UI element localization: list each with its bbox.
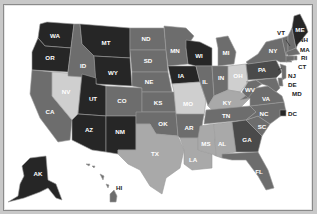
svg-text:NM: NM <box>115 128 125 135</box>
state-NM[interactable] <box>106 116 136 154</box>
svg-text:WA: WA <box>50 32 60 39</box>
svg-text:UT: UT <box>89 95 97 102</box>
svg-text:CT: CT <box>298 63 306 70</box>
svg-text:PA: PA <box>258 66 267 73</box>
svg-text:KY: KY <box>223 99 232 106</box>
svg-text:FL: FL <box>255 168 263 175</box>
svg-text:SD: SD <box>144 57 153 64</box>
svg-text:MA: MA <box>300 46 310 53</box>
svg-text:DE: DE <box>288 81 297 88</box>
svg-text:ID: ID <box>80 62 87 69</box>
svg-text:HI: HI <box>116 184 122 191</box>
state-AK[interactable] <box>8 156 62 202</box>
svg-text:NY: NY <box>269 47 278 54</box>
svg-text:NH: NH <box>299 36 308 43</box>
svg-text:GA: GA <box>242 136 252 143</box>
svg-text:IA: IA <box>178 72 185 79</box>
svg-text:NC: NC <box>260 110 269 117</box>
state-DC-marker[interactable] <box>280 110 286 116</box>
svg-text:LA: LA <box>189 156 198 163</box>
svg-text:VT: VT <box>277 29 285 36</box>
svg-text:MT: MT <box>102 39 111 46</box>
svg-text:IL: IL <box>202 78 208 85</box>
svg-text:OK: OK <box>158 120 168 127</box>
state-HI[interactable] <box>86 164 117 202</box>
svg-text:OR: OR <box>45 54 55 61</box>
svg-text:RI: RI <box>301 54 307 61</box>
svg-text:MN: MN <box>170 47 180 54</box>
svg-text:IN: IN <box>218 74 225 81</box>
svg-text:NE: NE <box>145 78 154 85</box>
svg-text:CA: CA <box>46 108 55 115</box>
state-CT[interactable] <box>286 56 294 62</box>
state-AZ[interactable] <box>72 114 106 152</box>
state-RI[interactable] <box>294 56 297 60</box>
svg-text:CO: CO <box>117 97 126 104</box>
svg-text:TN: TN <box>222 112 231 119</box>
svg-text:SC: SC <box>258 123 267 130</box>
svg-text:MD: MD <box>292 90 302 97</box>
svg-text:AZ: AZ <box>85 126 93 133</box>
svg-text:AK: AK <box>34 170 43 177</box>
svg-text:AL: AL <box>218 140 226 147</box>
svg-text:DC: DC <box>288 110 297 117</box>
svg-text:WY: WY <box>108 69 119 76</box>
svg-text:VA: VA <box>262 95 271 102</box>
svg-text:KS: KS <box>154 99 163 106</box>
svg-text:MS: MS <box>201 140 210 147</box>
state-FL[interactable] <box>222 152 274 190</box>
us-map: WA OR CA NV ID MT WY UT AZ CO NM ND SD N… <box>0 0 317 214</box>
svg-text:MO: MO <box>183 100 193 107</box>
svg-text:NJ: NJ <box>288 72 296 79</box>
svg-text:OH: OH <box>233 72 243 79</box>
svg-text:ND: ND <box>142 35 151 42</box>
svg-text:ME: ME <box>295 26 304 33</box>
svg-text:AR: AR <box>185 124 194 131</box>
svg-text:WI: WI <box>195 52 203 59</box>
svg-text:NV: NV <box>62 88 71 95</box>
svg-text:MI: MI <box>223 49 230 56</box>
svg-text:WV: WV <box>245 86 256 93</box>
svg-text:TX: TX <box>151 150 160 157</box>
